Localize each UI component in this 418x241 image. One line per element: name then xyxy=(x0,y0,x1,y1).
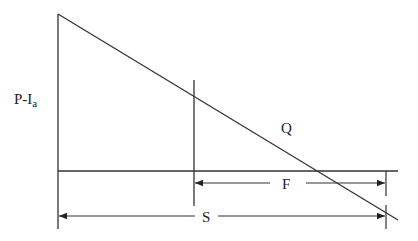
line-q-label: Q xyxy=(281,120,292,136)
f-dimension-label: F xyxy=(282,176,290,192)
line-q xyxy=(58,14,398,220)
y-axis-label-main: P-I xyxy=(14,91,32,107)
y-axis-label-subscript: a xyxy=(32,97,37,109)
y-axis-label: P-Ia xyxy=(14,91,37,109)
diagram-canvas: F S Q P-Ia xyxy=(0,0,418,241)
s-dimension-label: S xyxy=(202,209,210,225)
